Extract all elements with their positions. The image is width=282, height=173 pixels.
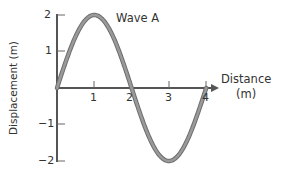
- x-axis-title-line1: Distance: [221, 72, 271, 87]
- wave-a-label: Wave A: [116, 11, 159, 25]
- x-tick-label-3: 3: [165, 92, 172, 103]
- y-tick-label-1: 1: [45, 45, 52, 56]
- y-tick-label-m2: −2: [38, 155, 54, 166]
- x-tick-label-2: 2: [126, 92, 133, 103]
- x-axis-arrow-icon: [211, 84, 219, 92]
- y-tick-label-2: 2: [44, 9, 51, 20]
- y-axis-title: Displacement (m): [7, 41, 19, 135]
- x-axis-title-line2: (m): [221, 87, 271, 102]
- x-tick-label-1: 1: [90, 92, 97, 103]
- x-axis-title: Distance (m): [221, 72, 271, 102]
- y-tick-label-m1: −1: [38, 118, 54, 129]
- x-tick-label-4: 4: [202, 92, 209, 103]
